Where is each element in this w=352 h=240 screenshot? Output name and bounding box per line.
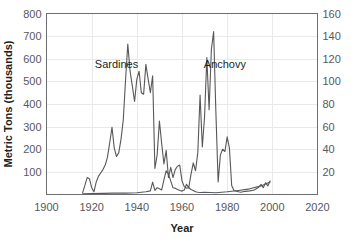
data-series-group bbox=[83, 32, 270, 194]
x-axis-tick-label: 1920 bbox=[79, 201, 103, 213]
y-axis-right-tick-label: 120 bbox=[323, 53, 341, 65]
y-axis-right-tick-label: 160 bbox=[323, 8, 341, 20]
y-axis-right-tick-label: 20 bbox=[323, 166, 335, 178]
y-axis-left-tick-label: 500 bbox=[23, 75, 41, 87]
y-axis-left-tick-labels: 100200300400500600700800 bbox=[23, 8, 41, 178]
y-axis-left-tick-label: 300 bbox=[23, 121, 41, 133]
x-axis-tick-label: 1940 bbox=[125, 201, 149, 213]
series-line-anchovy bbox=[83, 32, 270, 194]
y-axis-right-tick-label: 140 bbox=[323, 30, 341, 42]
x-axis-title: Year bbox=[170, 222, 194, 234]
y-axis-left-tick-label: 100 bbox=[23, 166, 41, 178]
y-axis-left-tick-label: 200 bbox=[23, 143, 41, 155]
series-annotation-anchovy: Anchovy bbox=[204, 58, 247, 70]
x-axis-tick-label: 1980 bbox=[215, 201, 239, 213]
fisheries-landings-line-chart: 100200300400500600700800 204060801001201… bbox=[0, 0, 352, 240]
y-axis-left-tick-label: 700 bbox=[23, 30, 41, 42]
y-axis-right-tick-labels: 20406080100120140160 bbox=[323, 8, 341, 178]
y-axis-right-tick-label: 80 bbox=[323, 98, 335, 110]
x-axis-tick-labels: 1900192019401960198020002020 bbox=[34, 201, 329, 213]
chart-figure: 100200300400500600700800 204060801001201… bbox=[0, 0, 352, 240]
y-axis-title: Metric Tons (thousands) bbox=[2, 40, 14, 167]
gridlines-group bbox=[47, 14, 318, 195]
x-axis-tick-label: 2000 bbox=[260, 201, 284, 213]
series-annotation-sardines: Sardines bbox=[95, 58, 139, 70]
y-axis-right-tick-label: 60 bbox=[323, 121, 335, 133]
y-axis-left-tick-label: 400 bbox=[23, 98, 41, 110]
y-axis-left-tick-label: 800 bbox=[23, 8, 41, 20]
y-axis-left-tick-label: 600 bbox=[23, 53, 41, 65]
y-axis-right-tick-label: 100 bbox=[323, 75, 341, 87]
x-axis-tick-label: 1960 bbox=[170, 201, 194, 213]
y-axis-right-tick-label: 40 bbox=[323, 143, 335, 155]
x-axis-tick-label: 2020 bbox=[305, 201, 329, 213]
x-axis-tick-label: 1900 bbox=[34, 201, 58, 213]
